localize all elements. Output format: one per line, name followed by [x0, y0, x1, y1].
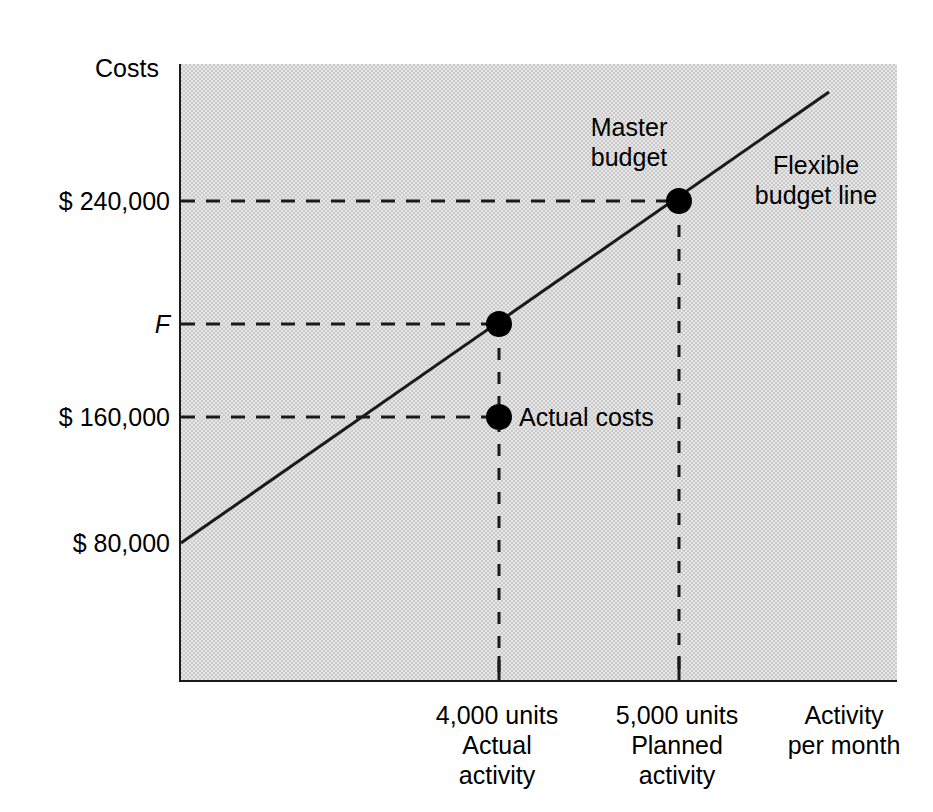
x-tick-label-4000-units: 4,000 units [397, 700, 597, 730]
x-tick-label-5000-units: 5,000 units [577, 700, 777, 730]
annotation-flexible-line2: budget line [726, 180, 906, 210]
marker-flexible-budget-at-actual [486, 311, 512, 337]
y-tick-label-160000: $ 160,000 [0, 403, 170, 431]
annotation-master-budget-line1: Master [549, 112, 709, 142]
plot-area: Master budget Flexible budget line Actua… [179, 64, 897, 682]
marker-master-budget [666, 188, 692, 214]
x-axis-title: Activity per month [755, 700, 933, 760]
annotation-flexible-line1: Flexible [726, 150, 906, 180]
y-axis-title: Costs [95, 54, 159, 82]
x-tick-sublabel-actual: Actual [397, 730, 597, 760]
x-tick-sublabel-planned: Planned [577, 730, 777, 760]
x-tick-group-planned: 5,000 units Planned activity [577, 700, 777, 790]
x-tick-group-actual: 4,000 units Actual activity [397, 700, 597, 790]
annotation-master-budget: Master budget [549, 112, 709, 172]
annotation-actual-costs: Actual costs [519, 402, 654, 432]
x-tick-sublabel-planned-activity: activity [577, 760, 777, 790]
x-axis-title-line2: per month [755, 730, 933, 760]
y-tick-label-F: F [0, 310, 170, 338]
x-axis-title-line1: Activity [755, 700, 933, 730]
annotation-master-budget-line2: budget [549, 142, 709, 172]
y-tick-label-240000: $ 240,000 [0, 187, 170, 215]
y-tick-label-80000: $ 80,000 [0, 529, 170, 557]
flexible-budget-chart: Costs $ 240,000 F $ 160,000 $ 80,000 [0, 0, 933, 812]
annotation-flexible-budget-line: Flexible budget line [726, 150, 906, 210]
marker-actual-costs [486, 404, 512, 430]
x-tick-sublabel-actual-activity: activity [397, 760, 597, 790]
